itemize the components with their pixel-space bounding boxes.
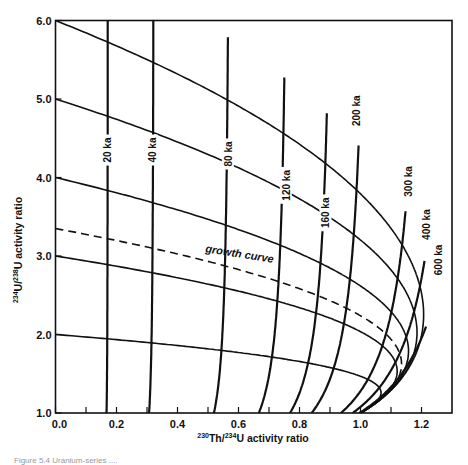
svg-text:20 ka: 20 ka xyxy=(102,137,113,162)
y-tick-label: 3.0 xyxy=(36,250,51,262)
x-axis-title: 230Th/234U activity ratio xyxy=(197,432,308,444)
isochron-label: 40 ka xyxy=(146,135,158,166)
isochron-label: 600 ka xyxy=(432,242,444,279)
svg-text:80 ka: 80 ka xyxy=(223,141,234,166)
svg-text:300 ka: 300 ka xyxy=(403,166,414,197)
initial-ratio-curve xyxy=(56,21,424,413)
y-tick-label: 5.0 xyxy=(36,93,51,105)
isochron-line xyxy=(259,78,284,414)
isochron-label: 300 ka xyxy=(402,163,414,200)
figure-caption: Figure 5.4 Uranium-series .... xyxy=(14,456,118,465)
svg-text:160 ka: 160 ka xyxy=(320,197,331,228)
svg-text:120 ka: 120 ka xyxy=(281,170,292,201)
isochron-line xyxy=(290,113,327,413)
isochron-label: 120 ka xyxy=(280,167,292,204)
uranium-series-isochron-chart: 0.00.20.40.60.81.01.21.02.03.04.05.06.0 … xyxy=(0,0,468,465)
x-tick-label: 0.8 xyxy=(292,418,307,430)
isochron-label: 80 ka xyxy=(222,138,234,169)
x-tick-label: 1.2 xyxy=(414,418,429,430)
x-tick-label: 0.6 xyxy=(231,418,246,430)
y-tick-label: 6.0 xyxy=(36,15,51,27)
svg-text:600 ka: 600 ka xyxy=(433,244,444,275)
y-axis-title: 234U/238U activity ratio xyxy=(12,197,24,303)
x-tick-label: 0.4 xyxy=(170,418,186,430)
y-tick-label: 2.0 xyxy=(36,329,51,341)
isochron-line xyxy=(107,0,108,413)
axis-ticks: 0.00.20.40.60.81.01.21.02.03.04.05.06.0 xyxy=(36,15,429,431)
svg-text:40 ka: 40 ka xyxy=(147,137,158,162)
isochron-label: 200 ka xyxy=(350,92,362,129)
y-tick-label: 1.0 xyxy=(36,407,51,419)
svg-text:400 ka: 400 ka xyxy=(421,209,432,240)
curves-layer xyxy=(56,0,427,413)
x-tick-label: 0.2 xyxy=(109,418,124,430)
isochron-label: 160 ka xyxy=(319,194,331,231)
x-tick-label: 1.0 xyxy=(353,418,368,430)
svg-text:200 ka: 200 ka xyxy=(351,95,362,126)
x-tick-label: 0.0 xyxy=(52,418,67,430)
y-tick-label: 4.0 xyxy=(36,172,51,184)
isochron-label: 400 ka xyxy=(420,206,432,243)
growth-curve-label: growth curve xyxy=(204,242,275,265)
isochron-label: 20 ka xyxy=(101,135,113,166)
